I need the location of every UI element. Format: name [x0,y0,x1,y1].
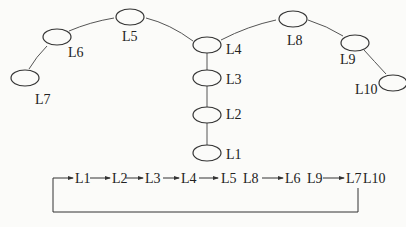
edge-l5-l6 [69,18,114,31]
label-l1: L1 [226,148,242,162]
seq-l9: L9 [307,172,323,186]
edge-l8-l9 [308,20,343,36]
label-l5: L5 [122,30,138,44]
seq-l1: L1 [75,172,91,186]
label-l10: L10 [355,83,378,97]
label-l3: L3 [226,73,242,87]
node-l3 [193,70,221,86]
node-l8 [279,11,307,27]
edge-l6-l7 [29,46,47,69]
label-l4: L4 [226,43,242,57]
edge-l9-l10 [364,50,386,74]
seq-l7: L7 [346,172,362,186]
seq-l6: L6 [285,172,301,186]
node-l7 [11,70,39,86]
node-l5 [116,9,144,25]
seq-l4: L4 [181,172,197,186]
label-l8: L8 [287,34,303,48]
seq-l8: L8 [243,172,259,186]
label-l6: L6 [68,46,84,60]
seq-l5: L5 [221,172,237,186]
label-l7: L7 [35,93,51,107]
node-l2 [193,107,221,123]
node-l10 [379,75,406,91]
seq-l10: L10 [363,172,386,186]
diagram-canvas [0,0,406,227]
edge-l4-l5 [146,18,193,41]
edge-l4-l8 [221,20,276,40]
seq-l2: L2 [112,172,128,186]
node-l9 [341,35,369,51]
label-l9: L9 [340,53,356,67]
node-l6 [43,29,71,45]
node-l1 [193,145,221,161]
seq-l3: L3 [145,172,161,186]
label-l2: L2 [226,108,242,122]
node-l4 [193,37,221,53]
